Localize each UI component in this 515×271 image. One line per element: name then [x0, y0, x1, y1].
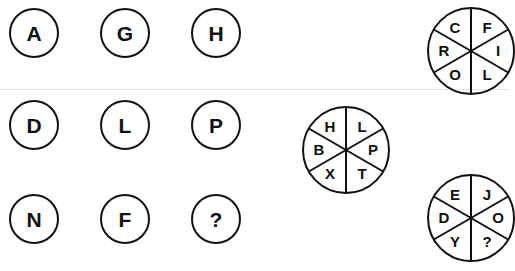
- segment-bottom-left: O: [449, 66, 461, 83]
- letter-circle-r2c1: D: [9, 100, 59, 150]
- segment-top-left: C: [450, 19, 461, 36]
- segment-left: R: [439, 42, 450, 59]
- segment-bottom-right: ?: [482, 233, 491, 250]
- segment-right: I: [496, 42, 500, 59]
- segment-right: P: [368, 141, 378, 158]
- letter: N: [26, 209, 41, 230]
- segment-bottom-left: Y: [450, 233, 460, 250]
- top-right-wheel: C F R I O L: [427, 7, 515, 95]
- letter-circle-r3c1: N: [9, 194, 59, 244]
- segment-bottom-left: X: [325, 165, 335, 182]
- letter: F: [119, 209, 132, 230]
- letter: D: [26, 115, 41, 136]
- segment-top-left: H: [325, 118, 336, 135]
- letter-circle-r1c2: G: [100, 8, 150, 58]
- segment-top-right: L: [357, 118, 366, 135]
- bottom-right-wheel: E J D O Y ?: [427, 174, 515, 262]
- letter: ?: [210, 209, 223, 230]
- segment-right: O: [492, 209, 504, 226]
- letter-circle-r2c3: P: [191, 100, 241, 150]
- letter: H: [208, 23, 223, 44]
- letter-circle-r2c2: L: [100, 100, 150, 150]
- letter: P: [209, 115, 223, 136]
- segment-left: B: [314, 141, 325, 158]
- segment-top-left: E: [450, 186, 460, 203]
- letter-circle-r1c1: A: [9, 8, 59, 58]
- segment-top-right: J: [483, 186, 491, 203]
- segment-top-right: F: [482, 19, 491, 36]
- letter: G: [117, 23, 133, 44]
- segment-bottom-right: L: [482, 66, 491, 83]
- segment-bottom-right: T: [357, 165, 366, 182]
- letter: A: [26, 23, 41, 44]
- letter-circle-r1c3: H: [191, 8, 241, 58]
- segment-left: D: [439, 209, 450, 226]
- letter: L: [119, 115, 132, 136]
- letter-circle-r3c2: F: [100, 194, 150, 244]
- middle-wheel: H L B P X T: [302, 106, 390, 194]
- letter-circle-r3c3: ?: [191, 194, 241, 244]
